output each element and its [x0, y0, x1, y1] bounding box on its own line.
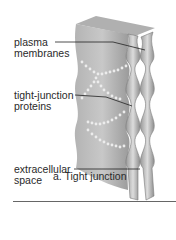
caption-divider — [13, 201, 176, 202]
label-tight-junction-proteins: tight-junction proteins — [14, 90, 74, 112]
label-plasma-membranes: plasma membranes — [14, 37, 69, 59]
left-cell-block — [75, 24, 130, 190]
figure-caption: a. Tight junction — [0, 170, 176, 182]
